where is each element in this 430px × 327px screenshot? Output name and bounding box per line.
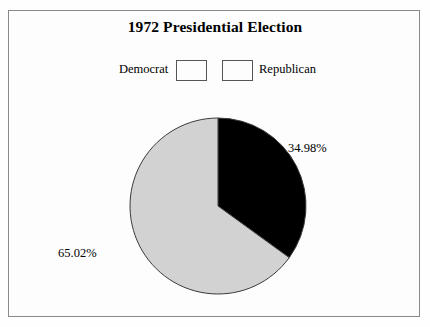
pie-slices — [130, 118, 306, 294]
pie-svg — [129, 117, 307, 295]
pie-chart-figure: 1972 Presidential Election Democrat Repu… — [0, 0, 430, 327]
slice-value-democrat: 65.02% — [58, 246, 97, 261]
slice-value-republican: 34.98% — [288, 141, 327, 156]
pie-plot-area: 34.98% 65.02% — [0, 0, 430, 327]
